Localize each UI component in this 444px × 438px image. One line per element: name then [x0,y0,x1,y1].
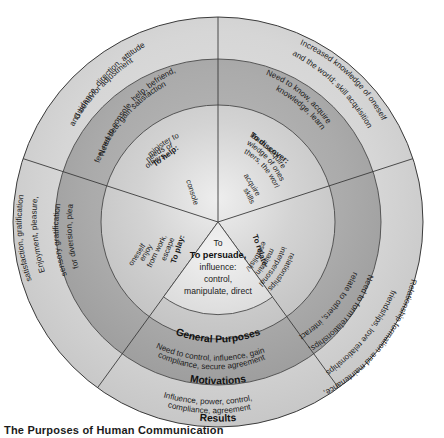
wheel-diagram: Guidance, direction, attitude and behavi… [0,0,444,438]
core-persuade-label: To persuade, [190,250,247,260]
svg-text:manipulate, direct: manipulate, direct [184,286,252,296]
svg-text:influence:: influence: [200,262,237,272]
ring-label-results: Results [199,412,236,424]
communication-purposes-wheel-figure: Guidance, direction, attitude and behavi… [0,0,444,438]
core-to-label: To [213,238,222,248]
svg-text:control,: control, [204,274,232,284]
figure-caption: The Purposes of Human Communication [4,424,224,436]
